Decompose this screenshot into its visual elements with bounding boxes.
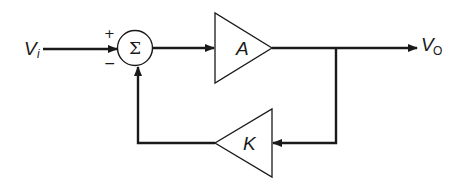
minus-sign: −: [104, 55, 116, 71]
forward-gain-block: A: [215, 13, 272, 83]
forward-gain-label: A: [235, 38, 249, 59]
feedback-block-diagram: V i + − Σ A V O K: [0, 0, 458, 186]
feedback-gain-block: K: [215, 109, 272, 177]
feedback-return-line: [138, 67, 215, 143]
feedback-gain-label: K: [243, 133, 257, 154]
output-label-subscript: O: [433, 44, 442, 58]
feedback-takeoff-line: [273, 48, 336, 143]
input-label: V i: [24, 38, 40, 61]
output-label: V O: [421, 34, 442, 58]
plus-sign: +: [104, 26, 115, 41]
input-label-subscript: i: [37, 47, 40, 61]
summing-junction: Σ: [118, 31, 153, 66]
sigma-symbol: Σ: [129, 38, 141, 58]
